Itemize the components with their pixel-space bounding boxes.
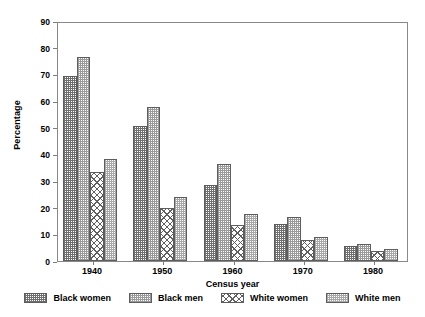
y-axis-tick-label: 40 xyxy=(28,149,50,161)
bar-1980-white-men xyxy=(384,249,398,261)
bar-1970-white-men xyxy=(314,237,328,261)
y-axis-tick-label: 50 xyxy=(28,123,50,135)
legend-swatch-icon xyxy=(24,293,47,303)
bar-1980-white-women xyxy=(371,251,385,261)
y-axis-tick: 90 xyxy=(27,16,57,28)
x-axis-tick-label: 1980 xyxy=(343,266,403,276)
x-axis-title: Census year xyxy=(0,279,425,289)
bar-1940-black-women xyxy=(63,76,77,261)
plot-area xyxy=(57,22,408,262)
y-axis-tick: 0 xyxy=(27,256,57,268)
y-axis-tick-mark xyxy=(53,128,57,129)
bar-1970-black-men xyxy=(287,217,301,261)
legend-item-black-men[interactable]: Black men xyxy=(129,293,203,303)
y-axis-tick-mark xyxy=(53,102,57,103)
bar-1970-white-women xyxy=(301,240,315,261)
bar-1960-black-men xyxy=(217,164,231,261)
x-axis-tick-mark xyxy=(234,261,235,265)
bar-1950-black-women xyxy=(133,126,147,261)
legend-label: White women xyxy=(250,293,308,303)
y-axis-tick-mark xyxy=(53,48,57,49)
bar-1940-black-men xyxy=(77,57,91,261)
y-axis-tick-label: 30 xyxy=(28,176,50,188)
y-axis-tick-mark xyxy=(53,235,57,236)
y-axis-tick-mark xyxy=(53,262,57,263)
x-axis-tick-mark xyxy=(93,261,94,265)
legend-swatch-icon xyxy=(129,293,152,303)
bar-1970-black-women xyxy=(274,224,288,261)
legend-swatch-icon xyxy=(326,293,349,303)
legend-item-white-men[interactable]: White men xyxy=(326,293,401,303)
bar-chart: Percentage 0102030405060708090 194019501… xyxy=(0,0,425,317)
y-axis-tick: 70 xyxy=(27,69,57,81)
legend-label: Black women xyxy=(53,293,111,303)
bar-1950-white-women xyxy=(160,208,174,261)
y-axis-tick-label: 80 xyxy=(28,43,50,55)
y-axis-tick-label: 10 xyxy=(28,229,50,241)
bar-1980-black-women xyxy=(344,246,358,261)
bar-1980-black-men xyxy=(357,244,371,261)
bar-1960-white-men xyxy=(244,214,258,261)
bar-1960-black-women xyxy=(204,185,218,261)
x-axis-tick-label: 1950 xyxy=(132,266,192,276)
y-axis-title: Percentage xyxy=(12,75,22,175)
x-axis-tick-mark xyxy=(163,261,164,265)
y-axis-tick-mark xyxy=(53,208,57,209)
bar-1960-white-women xyxy=(231,225,245,261)
y-axis-tick-label: 90 xyxy=(28,16,50,28)
bar-1940-white-men xyxy=(104,159,118,261)
y-axis-tick-label: 70 xyxy=(28,69,50,81)
legend-item-white-women[interactable]: White women xyxy=(221,293,308,303)
y-axis-tick-mark xyxy=(53,22,57,23)
x-axis-tick-mark xyxy=(374,261,375,265)
x-axis-tick-label: 1960 xyxy=(203,266,263,276)
y-axis-tick: 10 xyxy=(27,229,57,241)
y-axis-tick: 60 xyxy=(27,96,57,108)
plot-inner xyxy=(58,23,407,261)
y-axis-tick-label: 20 xyxy=(28,203,50,215)
y-axis-tick: 80 xyxy=(27,43,57,55)
legend-swatch-icon xyxy=(221,293,244,303)
bar-1950-black-men xyxy=(147,107,161,261)
legend-label: White men xyxy=(355,293,401,303)
legend-label: Black men xyxy=(158,293,203,303)
x-axis-tick-label: 1970 xyxy=(273,266,333,276)
y-axis-tick-label: 0 xyxy=(28,256,50,268)
legend-item-black-women[interactable]: Black women xyxy=(24,293,111,303)
bar-1940-white-women xyxy=(90,172,104,261)
y-axis-tick-mark xyxy=(53,182,57,183)
y-axis-tick: 20 xyxy=(27,203,57,215)
y-axis-tick-mark xyxy=(53,75,57,76)
y-axis-tick-mark xyxy=(53,155,57,156)
y-axis-tick: 40 xyxy=(27,149,57,161)
chart-legend: Black womenBlack menWhite womenWhite men xyxy=(0,293,425,303)
bar-1950-white-men xyxy=(174,197,188,261)
y-axis-tick: 30 xyxy=(27,176,57,188)
y-axis-tick: 50 xyxy=(27,123,57,135)
x-axis-tick-mark xyxy=(304,261,305,265)
y-axis-tick-label: 60 xyxy=(28,96,50,108)
x-axis-tick-label: 1940 xyxy=(62,266,122,276)
